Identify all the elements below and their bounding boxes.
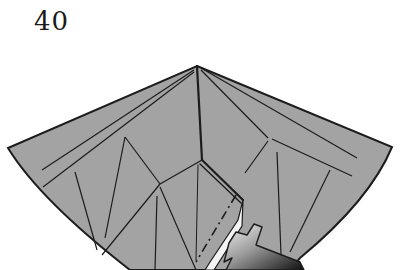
origami-diagram <box>0 0 417 270</box>
